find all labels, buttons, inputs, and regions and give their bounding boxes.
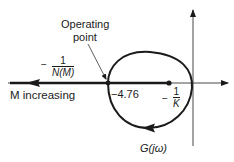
neg-inverse-k-sign: − [162, 93, 168, 104]
g-jw-label: G(jω) [140, 142, 167, 154]
operating-point-label-line1: Operating [61, 18, 109, 30]
m-increasing-label: M increasing [10, 89, 75, 101]
operating-point-pointer [88, 44, 106, 79]
neg-inverse-k-dot [166, 80, 171, 85]
m-increasing-text: M increasing [10, 89, 75, 101]
neg-inverse-n-sign: − [41, 59, 47, 70]
neg-inverse-k-denominator: K [173, 98, 180, 109]
neg-inverse-k-fraction: 1 K [173, 86, 180, 109]
neg-inverse-k-numerator: 1 [174, 86, 180, 97]
crossing-value-label: −4.76 [111, 88, 139, 100]
operating-point-label-line2: point [73, 31, 97, 43]
neg-inverse-n-fraction: 1 N(M) [52, 55, 74, 78]
neg-inverse-n-numerator: 1 [60, 55, 66, 66]
operating-point-dot [106, 81, 111, 86]
m-increasing-arrow-icon [26, 79, 40, 87]
nyquist-diagram [0, 0, 234, 162]
neg-inverse-n-denominator: N(M) [52, 67, 74, 78]
